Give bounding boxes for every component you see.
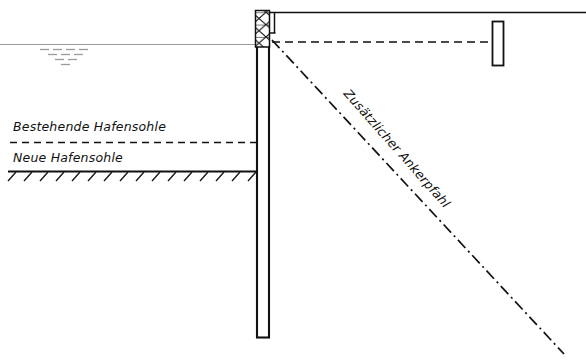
anchor-wall-plate	[493, 22, 504, 66]
diagram-canvas: Bestehende Hafensohle Neue Hafensohle Zu…	[0, 0, 586, 364]
section-drawing	[0, 0, 586, 364]
additional-anchor-pile-dashdot	[272, 40, 564, 354]
soil-hatching	[8, 172, 256, 181]
water-level-symbol	[40, 50, 88, 65]
label-new-harbour-bottom: Neue Hafensohle	[13, 150, 123, 165]
sheet-pile-wall	[256, 45, 270, 338]
label-existing-harbour-bottom: Bestehende Hafensohle	[13, 119, 166, 134]
